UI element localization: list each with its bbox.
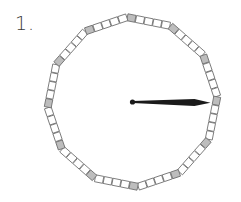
hour-marker-box <box>212 96 220 105</box>
minute-marker-box <box>46 90 54 99</box>
minute-marker-box <box>103 177 112 185</box>
hour-marker-box <box>127 14 136 22</box>
minute-marker-box <box>118 14 128 23</box>
hour-marker-box <box>129 182 138 190</box>
minute-marker-box <box>207 122 215 131</box>
minute-marker-box <box>49 73 57 82</box>
minute-marker-box <box>211 105 219 114</box>
minute-marker-box <box>112 178 121 186</box>
clock-diagram <box>0 0 241 202</box>
minute-marker-box <box>135 16 144 24</box>
minute-marker-box <box>48 81 56 90</box>
minute-marker-box <box>44 107 53 117</box>
minute-marker-box <box>137 181 147 190</box>
hour-hand <box>132 99 210 107</box>
clock-hand <box>130 99 211 107</box>
hand-pivot <box>130 99 135 104</box>
minute-marker-box <box>209 113 217 122</box>
minute-marker-box <box>144 17 153 25</box>
minute-marker-box <box>211 87 220 97</box>
hour-marker-box <box>44 98 52 107</box>
minute-marker-box <box>153 19 162 27</box>
minute-marker-box <box>120 180 129 188</box>
